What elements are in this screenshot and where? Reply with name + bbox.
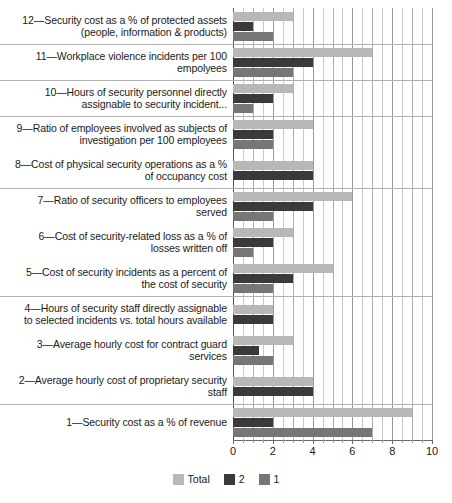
chart-row: 2—Average hourly cost of proprietary sec…	[0, 368, 452, 404]
bar-s2[interactable]	[233, 94, 273, 103]
bar-s2[interactable]	[233, 58, 313, 67]
chart-row: 9—Ratio of employees involved as subject…	[0, 116, 452, 152]
category-label-line: staff	[0, 386, 227, 399]
bar-s2[interactable]	[233, 346, 259, 355]
x-axis-tick-label: 2	[270, 445, 276, 458]
x-axis-minor-tick	[283, 440, 284, 443]
category-label-line: 1—Security cost as a % of revenue	[0, 416, 227, 429]
bar-s1[interactable]	[233, 284, 273, 293]
category-label: 12—Security cost as a % of protected ass…	[0, 14, 233, 39]
chart-row: 12—Security cost as a % of protected ass…	[0, 8, 452, 44]
category-label-line: 10—Hours of security personnel directly	[0, 86, 227, 99]
bar-s1[interactable]	[233, 104, 253, 113]
bar-s2[interactable]	[233, 315, 273, 324]
row-bars	[233, 368, 452, 404]
legend-label: 2	[239, 473, 245, 485]
chart-row: 7—Ratio of security officers to employee…	[0, 188, 452, 224]
bar-chart: 12—Security cost as a % of protected ass…	[0, 0, 452, 503]
x-axis-tick-label: 4	[310, 445, 316, 458]
bar-total[interactable]	[233, 192, 352, 201]
category-label: 5—Cost of security incidents as a percen…	[0, 266, 233, 291]
category-label-line: assignable to security incident...	[0, 98, 227, 111]
category-label: 11—Workplace violence incidents per 100e…	[0, 50, 233, 75]
category-label: 2—Average hourly cost of proprietary sec…	[0, 374, 233, 399]
category-label: 6—Cost of security-related loss as a % o…	[0, 230, 233, 255]
x-axis-minor-tick	[402, 440, 403, 443]
x-axis-tick	[313, 440, 314, 444]
x-axis-tick	[233, 440, 234, 444]
row-bars	[233, 116, 452, 152]
x-axis-minor-tick	[243, 440, 244, 443]
x-axis-minor-tick	[263, 440, 264, 443]
bar-total[interactable]	[233, 408, 412, 417]
bar-s2[interactable]	[233, 238, 273, 247]
category-label-line: 9—Ratio of employees involved as subject…	[0, 122, 227, 135]
bar-s2[interactable]	[233, 418, 273, 427]
x-axis-tick-label: 8	[389, 445, 395, 458]
bar-s1[interactable]	[233, 248, 253, 257]
category-label-line: 8—Cost of physical security operations a…	[0, 158, 227, 171]
bar-s2[interactable]	[233, 130, 273, 139]
bar-total[interactable]	[233, 264, 333, 273]
category-label: 4—Hours of security staff directly assig…	[0, 302, 233, 327]
bar-total[interactable]	[233, 84, 293, 93]
legend-label: Total	[188, 473, 210, 485]
bar-total[interactable]	[233, 336, 293, 345]
legend-swatch-icon	[224, 474, 235, 485]
bar-total[interactable]	[233, 305, 273, 314]
row-bars	[233, 260, 452, 296]
category-label-line: 3—Average hourly cost for contract guard	[0, 338, 227, 351]
x-axis-minor-tick	[293, 440, 294, 443]
bar-s1[interactable]	[233, 212, 273, 221]
x-axis-tick-label: 6	[349, 445, 355, 458]
row-bars	[233, 44, 452, 80]
legend-swatch-icon	[259, 474, 270, 485]
category-label-line: 7—Ratio of security officers to employee…	[0, 194, 227, 207]
chart-legend: Total21	[0, 473, 452, 485]
bar-total[interactable]	[233, 48, 372, 57]
bar-s2[interactable]	[233, 171, 313, 180]
category-label-line: the cost of security	[0, 278, 227, 291]
bar-s1[interactable]	[233, 32, 273, 41]
x-axis-tick-label: 0	[230, 445, 236, 458]
chart-row: 4—Hours of security staff directly assig…	[0, 296, 452, 332]
bar-s2[interactable]	[233, 202, 313, 211]
category-label: 8—Cost of physical security operations a…	[0, 158, 233, 183]
bar-s1[interactable]	[233, 140, 273, 149]
bar-s1[interactable]	[233, 68, 293, 77]
category-label: 10—Hours of security personnel directlya…	[0, 86, 233, 111]
legend-item[interactable]: 2	[224, 473, 245, 485]
x-axis-minor-tick	[372, 440, 373, 443]
chart-row: 1—Security cost as a % of revenue	[0, 404, 452, 440]
bar-s1[interactable]	[233, 356, 273, 365]
chart-row: 6—Cost of security-related loss as a % o…	[0, 224, 452, 260]
x-axis-tick-label: 10	[426, 445, 438, 458]
x-axis-minor-tick	[362, 440, 363, 443]
bar-total[interactable]	[233, 120, 313, 129]
category-label-line: of occupancy cost	[0, 170, 227, 183]
legend-item[interactable]: 1	[259, 473, 280, 485]
row-bars	[233, 152, 452, 188]
legend-label: 1	[274, 473, 280, 485]
chart-rows: 12—Security cost as a % of protected ass…	[0, 8, 452, 440]
bar-total[interactable]	[233, 161, 313, 170]
x-axis-tick	[432, 440, 433, 444]
chart-row: 8—Cost of physical security operations a…	[0, 152, 452, 188]
bar-total[interactable]	[233, 228, 293, 237]
bar-total[interactable]	[233, 377, 313, 386]
row-bars	[233, 404, 452, 440]
x-axis-minor-tick	[333, 440, 334, 443]
bar-s2[interactable]	[233, 387, 313, 396]
category-label: 9—Ratio of employees involved as subject…	[0, 122, 233, 147]
plot-area: 12—Security cost as a % of protected ass…	[0, 8, 452, 440]
bar-s2[interactable]	[233, 274, 293, 283]
bar-s2[interactable]	[233, 22, 253, 31]
category-label-line: to selected incidents vs. total hours av…	[0, 314, 227, 327]
bar-s1[interactable]	[233, 428, 372, 437]
x-axis-minor-tick	[382, 440, 383, 443]
legend-item[interactable]: Total	[173, 473, 210, 485]
x-axis-minor-tick	[323, 440, 324, 443]
category-label-line: 6—Cost of security-related loss as a % o…	[0, 230, 227, 243]
x-axis-minor-tick	[412, 440, 413, 443]
bar-total[interactable]	[233, 12, 293, 21]
